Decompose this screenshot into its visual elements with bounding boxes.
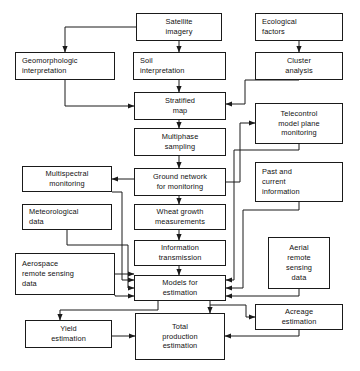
node-yield_estimation[interactable]: Yieldestimation	[25, 320, 112, 348]
node-past_and_current_information[interactable]: Past andcurrentinformation	[255, 162, 343, 202]
node-stratified_map[interactable]: Stratifiedmap	[134, 92, 226, 120]
edge-multispectral_monitoring-to-models_for_estimation	[112, 192, 134, 280]
node-label: Aerialremotesensingdata	[286, 243, 312, 282]
edge-geomorphologic_interpretation-to-stratified_map	[65, 80, 134, 106]
node-label: Ground networkfor monitoring	[153, 172, 207, 192]
node-ground_network_for_monitoring[interactable]: Ground networkfor monitoring	[134, 168, 226, 196]
node-label: Totalproductionestimation	[162, 322, 198, 351]
edge-aerial_remote_sensing_data-to-models_for_estimation	[226, 289, 299, 296]
node-meteorological_data[interactable]: Meteorologicaldata	[22, 204, 112, 230]
node-label: Models forestimation	[162, 278, 198, 298]
node-label: Wheat growthmeasurements	[155, 207, 205, 227]
node-label: Informationtransmission	[159, 243, 202, 263]
node-label: Stratifiedmap	[165, 96, 195, 116]
node-label: Yieldestimation	[51, 324, 86, 344]
node-label: Telecontrolmodel planemonitoring	[278, 109, 319, 138]
node-soil_interpretation[interactable]: Soilinterpretation	[133, 52, 226, 80]
node-satellite_imagery[interactable]: Satelliteimagery	[136, 13, 222, 41]
edge-aerospace_remote_sensing_data-to-models_for_estimation_b	[115, 295, 134, 296]
flowchart-canvas: SatelliteimageryEcologicalfactorsGeomorp…	[0, 0, 360, 371]
node-label: Ecologicalfactors	[262, 17, 297, 37]
node-label: Acreageestimation	[282, 307, 317, 327]
node-models_for_estimation[interactable]: Models forestimation	[134, 275, 226, 301]
node-aerospace_remote_sensing_data[interactable]: Aerospaceremote sensingdata	[15, 253, 115, 295]
node-label: Satelliteimagery	[165, 17, 192, 37]
node-label: Multispectralmonitoring	[46, 169, 89, 189]
node-geomorphologic_interpretation[interactable]: Geomorphologicinterpretation	[15, 52, 115, 80]
node-label: Soilinterpretation	[140, 56, 185, 76]
edge-ground_network_for_monitoring-to-telecontrol_model_plane_monitoring	[226, 123, 255, 182]
node-aerial_remote_sensing_data[interactable]: Aerialremotesensingdata	[268, 237, 330, 289]
node-multispectral_monitoring[interactable]: Multispectralmonitoring	[22, 166, 112, 192]
node-telecontrol_model_plane_monitoring[interactable]: Telecontrolmodel planemonitoring	[255, 103, 343, 144]
node-label: Past andcurrentinformation	[262, 167, 300, 196]
node-total_production_estimation[interactable]: Totalproductionestimation	[135, 313, 225, 360]
node-ecological_factors[interactable]: Ecologicalfactors	[255, 13, 343, 41]
node-cluster_analysis[interactable]: Clusteranalysis	[255, 52, 343, 80]
node-information_transmission[interactable]: Informationtransmission	[134, 240, 226, 266]
node-wheat_growth_measurements[interactable]: Wheat growthmeasurements	[134, 204, 226, 230]
edge-satellite_imagery-to-geomorphologic_interpretation	[65, 27, 136, 52]
node-label: Geomorphologicinterpretation	[22, 56, 78, 76]
node-label: Meteorologicaldata	[29, 207, 78, 227]
edge-acreage_estimation-to-total_production_estimation	[225, 330, 299, 336]
node-label: Aerospaceremote sensingdata	[22, 259, 74, 288]
edge-cluster_analysis-to-stratified_map	[226, 80, 299, 104]
node-label: Multiphasesampling	[162, 132, 199, 152]
node-multiphase_sampling[interactable]: Multiphasesampling	[134, 128, 226, 156]
node-acreage_estimation[interactable]: Acreageestimation	[255, 304, 343, 330]
node-label: Clusteranalysis	[285, 56, 313, 76]
